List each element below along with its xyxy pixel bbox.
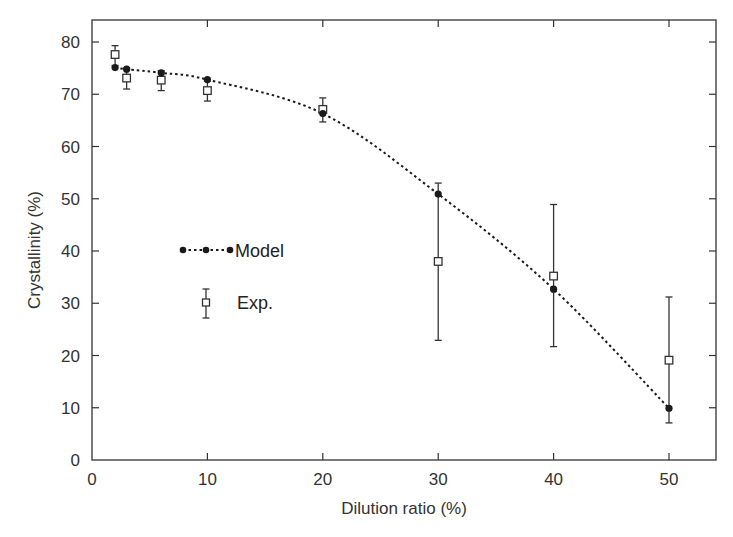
y-tick-label: 80 (61, 33, 80, 52)
y-tick-label: 70 (61, 85, 80, 104)
exp-data-point (550, 204, 558, 346)
model-data-point (435, 190, 442, 197)
exp-series (111, 46, 673, 423)
x-tick-label: 30 (429, 470, 448, 489)
x-axis-title: Dilution ratio (%) (341, 499, 467, 518)
plot-frame (92, 20, 716, 460)
y-tick-label: 20 (61, 347, 80, 366)
legend-model-label: Model (235, 241, 284, 261)
y-axis-title: Crystallinity (%) (25, 191, 44, 309)
exp-data-point (319, 98, 327, 122)
x-tick-label: 20 (313, 470, 332, 489)
y-tick-label: 0 (71, 451, 80, 470)
model-data-point (665, 405, 672, 412)
legend-exp-label: Exp. (237, 293, 273, 313)
model-data-point (319, 110, 326, 117)
y-tick-label: 10 (61, 399, 80, 418)
y-tick-label: 50 (61, 190, 80, 209)
model-data-point (550, 286, 557, 293)
model-series-line (115, 68, 669, 409)
model-series-points (111, 64, 672, 412)
x-tick-label: 0 (87, 470, 96, 489)
model-data-point (111, 64, 118, 71)
x-tick-label: 50 (660, 470, 679, 489)
chart: 01020304050 01020304050607080 Dilution r… (0, 0, 733, 537)
exp-data-point (434, 183, 442, 340)
y-tick-label: 40 (61, 242, 80, 261)
x-tick-label: 10 (198, 470, 217, 489)
model-data-point (204, 76, 211, 83)
legend: Model Exp. (180, 241, 284, 318)
y-tick-label: 30 (61, 294, 80, 313)
x-axis-ticks: 01020304050 (87, 20, 678, 489)
y-tick-label: 60 (61, 138, 80, 157)
x-tick-label: 40 (544, 470, 563, 489)
exp-data-point (204, 81, 212, 101)
legend-model-symbol (180, 247, 234, 254)
model-data-point (123, 66, 130, 73)
legend-exp-symbol (203, 289, 210, 318)
model-data-point (158, 69, 165, 76)
exp-data-point (111, 46, 119, 66)
y-axis-ticks: 01020304050607080 (61, 33, 716, 470)
exp-data-point (665, 297, 673, 423)
